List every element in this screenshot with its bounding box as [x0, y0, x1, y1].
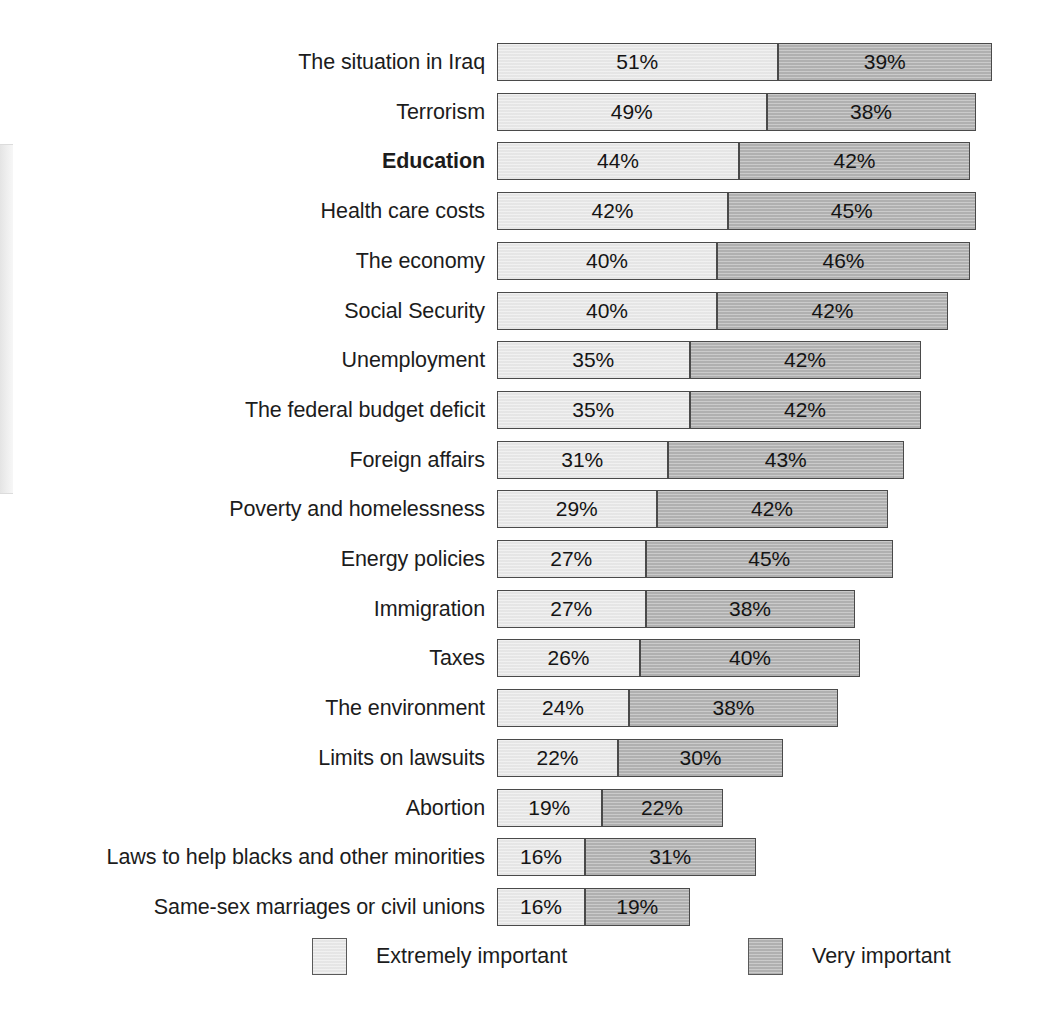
bar-segment-very-important: 42% — [717, 292, 948, 330]
stacked-bar: 42%45% — [497, 192, 976, 230]
legend-item-very-important: Very important — [748, 938, 951, 975]
stacked-bar: 51%39% — [497, 43, 992, 81]
bar-segment-very-important: 40% — [640, 639, 860, 677]
bar-value-very-important: 30% — [679, 746, 721, 770]
bar-segment-extremely-important: 22% — [497, 739, 618, 777]
bar-segment-very-important: 45% — [646, 540, 894, 578]
chart-row: Foreign affairs31%43% — [0, 441, 1037, 479]
bar-value-very-important: 42% — [811, 299, 853, 323]
bar-value-very-important: 46% — [822, 249, 864, 273]
bar-value-extremely-important: 19% — [528, 796, 570, 820]
bar-value-very-important: 38% — [729, 597, 771, 621]
chart-row: Health care costs42%45% — [0, 192, 1037, 230]
chart-row: Energy policies27%45% — [0, 540, 1037, 578]
chart-legend: Extremely important Very important — [0, 938, 1037, 994]
row-label: Immigration — [40, 590, 485, 628]
bar-segment-extremely-important: 27% — [497, 540, 646, 578]
row-label: Abortion — [40, 789, 485, 827]
bar-value-extremely-important: 26% — [547, 646, 589, 670]
row-label: The situation in Iraq — [40, 43, 485, 81]
bar-value-very-important: 42% — [784, 348, 826, 372]
row-label: Education — [40, 142, 485, 180]
stacked-bar: 24%38% — [497, 689, 838, 727]
stacked-bar: 35%42% — [497, 341, 921, 379]
row-label: Energy policies — [40, 540, 485, 578]
bar-value-very-important: 38% — [850, 100, 892, 124]
bar-segment-very-important: 42% — [739, 142, 970, 180]
bar-value-extremely-important: 29% — [556, 497, 598, 521]
bar-value-extremely-important: 42% — [591, 199, 633, 223]
chart-row: Social Security40%42% — [0, 292, 1037, 330]
bar-segment-extremely-important: 16% — [497, 838, 585, 876]
legend-item-extremely-important: Extremely important — [312, 938, 567, 975]
bar-segment-very-important: 42% — [690, 341, 921, 379]
row-label: Limits on lawsuits — [40, 739, 485, 777]
bar-segment-extremely-important: 51% — [497, 43, 778, 81]
bar-segment-very-important: 31% — [585, 838, 756, 876]
bar-segment-extremely-important: 27% — [497, 590, 646, 628]
legend-swatch-very-important — [748, 938, 783, 975]
bar-value-very-important: 45% — [748, 547, 790, 571]
row-label: The federal budget deficit — [40, 391, 485, 429]
chart-row: Terrorism49%38% — [0, 93, 1037, 131]
bar-segment-extremely-important: 40% — [497, 292, 717, 330]
stacked-bar: 35%42% — [497, 391, 921, 429]
chart-row: Taxes26%40% — [0, 639, 1037, 677]
legend-label-extremely-important: Extremely important — [376, 944, 567, 969]
bar-segment-extremely-important: 42% — [497, 192, 728, 230]
bar-value-extremely-important: 40% — [586, 249, 628, 273]
bar-segment-very-important: 46% — [717, 242, 970, 280]
bar-value-very-important: 38% — [712, 696, 754, 720]
bar-segment-extremely-important: 16% — [497, 888, 585, 926]
chart-row: Limits on lawsuits22%30% — [0, 739, 1037, 777]
stacked-bar: 44%42% — [497, 142, 970, 180]
stacked-bar: 27%45% — [497, 540, 893, 578]
bar-segment-very-important: 43% — [668, 441, 905, 479]
chart-row: Immigration27%38% — [0, 590, 1037, 628]
row-label: Terrorism — [40, 93, 485, 131]
stacked-bar: 27%38% — [497, 590, 855, 628]
bar-segment-very-important: 19% — [585, 888, 690, 926]
bar-segment-extremely-important: 24% — [497, 689, 629, 727]
stacked-bar: 22%30% — [497, 739, 783, 777]
bar-segment-extremely-important: 29% — [497, 490, 657, 528]
bar-segment-very-important: 39% — [778, 43, 993, 81]
bar-segment-extremely-important: 49% — [497, 93, 767, 131]
chart-row: Same-sex marriages or civil unions16%19% — [0, 888, 1037, 926]
bar-value-very-important: 42% — [784, 398, 826, 422]
bar-value-extremely-important: 51% — [616, 50, 658, 74]
stacked-bar-chart: The situation in Iraq51%39%Terrorism49%3… — [0, 0, 1037, 1018]
chart-row: Abortion19%22% — [0, 789, 1037, 827]
row-label: Same-sex marriages or civil unions — [40, 888, 485, 926]
stacked-bar: 16%31% — [497, 838, 756, 876]
stacked-bar: 29%42% — [497, 490, 888, 528]
bar-value-very-important: 40% — [729, 646, 771, 670]
stacked-bar: 26%40% — [497, 639, 860, 677]
legend-swatch-extremely-important — [312, 938, 347, 975]
bar-value-extremely-important: 35% — [572, 348, 614, 372]
row-label: Social Security — [40, 292, 485, 330]
bar-segment-very-important: 42% — [657, 490, 888, 528]
bar-value-very-important: 31% — [649, 845, 691, 869]
row-label: Health care costs — [40, 192, 485, 230]
bar-segment-extremely-important: 26% — [497, 639, 640, 677]
bar-segment-very-important: 22% — [602, 789, 723, 827]
chart-row: Poverty and homelessness29%42% — [0, 490, 1037, 528]
row-label: Unemployment — [40, 341, 485, 379]
bar-segment-extremely-important: 31% — [497, 441, 668, 479]
row-label: The economy — [40, 242, 485, 280]
stacked-bar: 40%46% — [497, 242, 970, 280]
chart-row: Education44%42% — [0, 142, 1037, 180]
bar-value-very-important: 19% — [616, 895, 658, 919]
bar-segment-very-important: 38% — [646, 590, 855, 628]
stacked-bar: 19%22% — [497, 789, 723, 827]
bar-value-very-important: 45% — [831, 199, 873, 223]
bar-value-extremely-important: 44% — [597, 149, 639, 173]
bar-value-extremely-important: 27% — [550, 547, 592, 571]
bar-value-very-important: 42% — [833, 149, 875, 173]
row-label: Poverty and homelessness — [40, 490, 485, 528]
stacked-bar: 40%42% — [497, 292, 948, 330]
stacked-bar: 31%43% — [497, 441, 904, 479]
stacked-bar: 49%38% — [497, 93, 976, 131]
chart-row: The environment24%38% — [0, 689, 1037, 727]
